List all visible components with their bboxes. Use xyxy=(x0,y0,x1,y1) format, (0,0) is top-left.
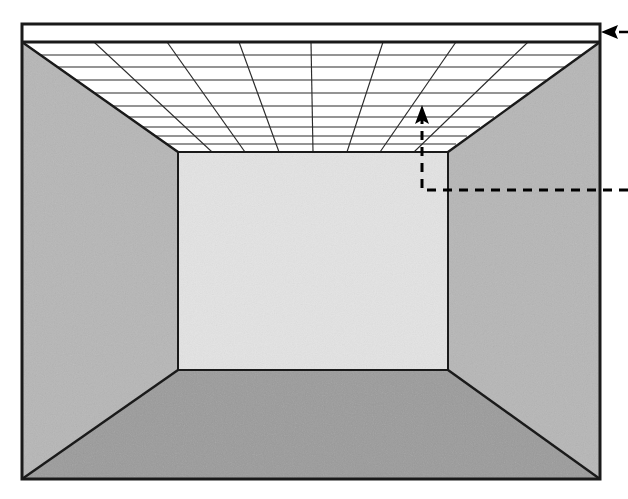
ceiling-callout-arrowhead xyxy=(601,25,618,39)
figure-root xyxy=(0,0,628,499)
room-perspective-diagram xyxy=(0,0,628,499)
back-wall-surface xyxy=(178,152,448,370)
ceiling-callout xyxy=(601,25,628,39)
